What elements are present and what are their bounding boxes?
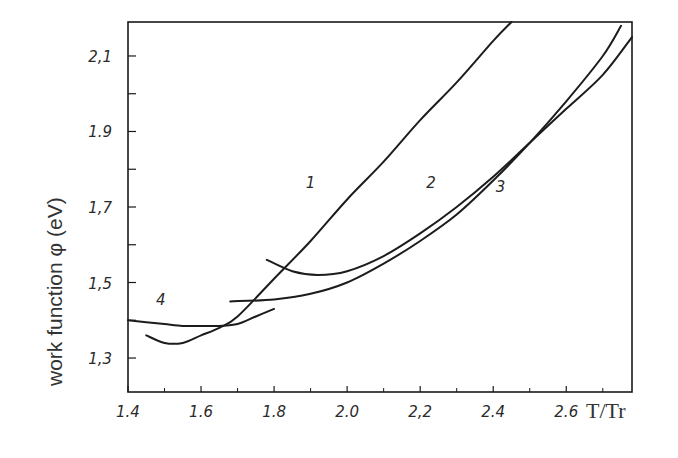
y-axis-tick-labels: 1,31,51,71.92,1 — [88, 48, 112, 368]
x-tick-label: 1.8 — [262, 403, 286, 421]
x-axis-ticks — [128, 386, 603, 392]
x-axis-tick-labels: 1.41.61.82.02,22.42.6 — [116, 403, 578, 421]
curve-4 — [128, 309, 274, 326]
work-function-chart: 1.41.61.82.02,22.42.6 1,31,51,71.92,1 12… — [0, 0, 678, 458]
y-tick-label: 1,7 — [88, 199, 112, 217]
x-tick-label: 2,2 — [408, 403, 432, 421]
y-axis-label: work function φ (eV) — [43, 197, 66, 387]
curve-2 — [267, 37, 632, 275]
curve-label-4: 4 — [156, 291, 166, 309]
curve-label-2: 2 — [426, 174, 436, 192]
axes-box — [128, 22, 632, 392]
curve-1 — [146, 22, 511, 344]
x-tick-label: 2.0 — [335, 403, 359, 421]
y-axis-ticks — [128, 56, 136, 358]
y-tick-label: 1,3 — [88, 350, 112, 368]
y-tick-label: 1,5 — [88, 275, 112, 293]
curves — [128, 22, 632, 344]
x-tick-label: 1.6 — [189, 403, 213, 421]
curve-label-3: 3 — [496, 178, 506, 196]
x-tick-label: 2.4 — [481, 403, 505, 421]
x-tick-label: 2.6 — [554, 403, 578, 421]
plot-frame — [128, 22, 632, 392]
curve-3 — [230, 26, 621, 302]
x-tick-label: 1.4 — [116, 403, 140, 421]
y-tick-label: 1.9 — [88, 123, 112, 141]
y-tick-label: 2,1 — [88, 48, 112, 66]
x-axis-label: T/Tr — [586, 398, 626, 423]
curve-label-1: 1 — [306, 174, 316, 192]
